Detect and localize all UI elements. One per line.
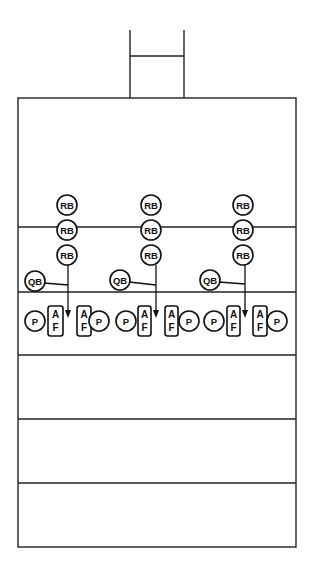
player-right: P xyxy=(89,311,109,331)
running-back-1-label: RB xyxy=(236,200,250,211)
running-back-3: RB xyxy=(233,245,253,265)
play-diagram: RBRBRBQBPAFAFPRBRBRBQBPAFAFPRBRBRBQBPAFA… xyxy=(0,0,312,576)
af-left-label-top: A xyxy=(52,309,59,320)
player-left: P xyxy=(204,311,224,331)
running-back-2: RB xyxy=(233,220,253,240)
player-right: P xyxy=(179,311,199,331)
running-back-1-label: RB xyxy=(144,200,158,211)
af-right: AF xyxy=(165,306,178,336)
player-left: P xyxy=(25,311,45,331)
quarterback-label: QB xyxy=(203,275,217,286)
running-back-1: RB xyxy=(57,195,77,215)
quarterback: QB xyxy=(110,270,130,290)
formation-right: RBRBRBQBPAFAFP xyxy=(200,195,287,336)
af-right-label-top: A xyxy=(80,309,87,320)
quarterback: QB xyxy=(25,271,45,291)
af-right-label-bottom: F xyxy=(168,322,174,333)
player-right-label: P xyxy=(96,316,103,327)
af-left: AF xyxy=(138,306,151,336)
running-back-1: RB xyxy=(233,195,253,215)
running-back-3-label: RB xyxy=(60,250,74,261)
qb-handoff-line xyxy=(44,283,68,285)
running-back-2-label: RB xyxy=(236,225,250,236)
qb-handoff-line xyxy=(219,282,245,284)
running-back-3-label: RB xyxy=(236,250,250,261)
af-left-label-bottom: F xyxy=(52,322,58,333)
qb-handoff-line xyxy=(129,282,156,285)
arrowhead-icon xyxy=(65,310,71,318)
af-right-label-bottom: F xyxy=(257,322,263,333)
formation-groups: RBRBRBQBPAFAFPRBRBRBQBPAFAFPRBRBRBQBPAFA… xyxy=(25,195,287,336)
af-right-label-bottom: F xyxy=(81,322,87,333)
af-left-label-bottom: F xyxy=(230,322,236,333)
player-left: P xyxy=(116,311,136,331)
player-left-label: P xyxy=(123,316,130,327)
quarterback: QB xyxy=(200,270,220,290)
af-right: AF xyxy=(253,306,267,336)
af-left: AF xyxy=(48,306,63,336)
running-back-1: RB xyxy=(141,195,161,215)
goalpost xyxy=(130,30,184,98)
af-left: AF xyxy=(227,306,240,336)
player-left-label: P xyxy=(32,316,39,327)
af-right-label-top: A xyxy=(168,309,175,320)
formation-middle: RBRBRBQBPAFAFP xyxy=(110,195,199,336)
quarterback-label: QB xyxy=(113,275,127,286)
af-left-label-top: A xyxy=(141,309,148,320)
running-back-2: RB xyxy=(141,220,161,240)
running-back-3-label: RB xyxy=(144,250,158,261)
quarterback-label: QB xyxy=(28,276,42,287)
player-right-label: P xyxy=(186,316,193,327)
arrowhead-icon xyxy=(242,310,248,318)
running-back-3: RB xyxy=(141,245,161,265)
running-back-2: RB xyxy=(57,220,77,240)
player-right-label: P xyxy=(274,316,281,327)
af-left-label-bottom: F xyxy=(141,322,147,333)
running-back-2-label: RB xyxy=(60,225,74,236)
player-right: P xyxy=(267,311,287,331)
player-left-label: P xyxy=(211,316,218,327)
running-back-3: RB xyxy=(57,245,77,265)
arrowhead-icon xyxy=(153,310,159,318)
formation-left: RBRBRBQBPAFAFP xyxy=(25,195,109,336)
running-back-1-label: RB xyxy=(60,200,74,211)
af-right-label-top: A xyxy=(256,309,263,320)
af-left-label-top: A xyxy=(230,309,237,320)
running-back-2-label: RB xyxy=(144,225,158,236)
